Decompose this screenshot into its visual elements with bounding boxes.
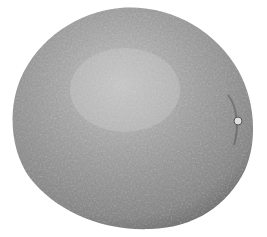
orange-illustration <box>0 0 267 237</box>
photo-orange <box>0 0 267 237</box>
highlight <box>70 48 180 132</box>
stem-end <box>234 117 242 125</box>
